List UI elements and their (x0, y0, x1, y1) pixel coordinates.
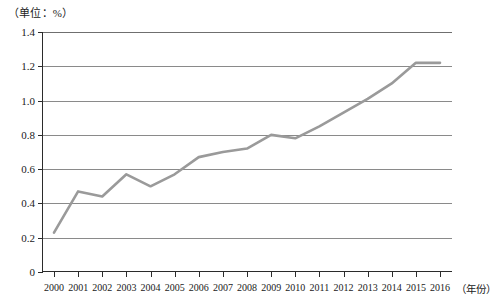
y-axis-label: 0 (30, 266, 36, 278)
x-axis-label: 2006 (189, 282, 209, 293)
x-axis-tick (295, 272, 296, 277)
x-axis-tick (368, 272, 369, 277)
x-axis-label: 2001 (68, 282, 88, 293)
x-axis-tick (392, 272, 393, 277)
x-axis-label: 2009 (261, 282, 281, 293)
y-axis-label: 1.4 (21, 26, 35, 38)
y-axis-label: 1.2 (21, 60, 35, 72)
line-chart: （单位：%） 00.20.40.60.81.01.21.4 2000200120… (0, 0, 490, 305)
x-axis-label: 2011 (310, 282, 330, 293)
x-axis-tick (126, 272, 127, 277)
x-axis-tick (78, 272, 79, 277)
data-series-line (42, 32, 452, 272)
x-axis-tick (247, 272, 248, 277)
x-axis-label: 2003 (116, 282, 136, 293)
x-axis-tick (440, 272, 441, 277)
plot-area: 00.20.40.60.81.01.21.4 20002001200220032… (42, 32, 452, 272)
x-axis-label: 2002 (92, 282, 112, 293)
x-axis-tick (271, 272, 272, 277)
y-axis-label: 0.2 (21, 232, 35, 244)
x-axis-label: 2008 (237, 282, 257, 293)
x-axis-label: 2010 (285, 282, 305, 293)
unit-caption: （单位：%） (8, 4, 73, 20)
x-axis-label: 2005 (165, 282, 185, 293)
x-axis-title: （年份） (456, 281, 490, 296)
x-axis-tick (416, 272, 417, 277)
y-axis-label: 1.0 (21, 95, 35, 107)
x-axis-tick (344, 272, 345, 277)
x-axis-label: 2000 (44, 282, 64, 293)
x-axis-label: 2014 (382, 282, 402, 293)
x-axis-label: 2016 (430, 282, 450, 293)
x-axis-label: 2007 (213, 282, 233, 293)
x-axis-tick (223, 272, 224, 277)
x-axis-label: 2012 (334, 282, 354, 293)
x-axis-tick (151, 272, 152, 277)
x-axis-tick (54, 272, 55, 277)
x-axis-tick (319, 272, 320, 277)
x-axis-tick (175, 272, 176, 277)
x-axis-label: 2013 (358, 282, 378, 293)
y-axis-label: 0.4 (21, 197, 35, 209)
x-axis-label: 2004 (141, 282, 161, 293)
y-axis-label: 0.6 (21, 163, 35, 175)
x-axis-tick (199, 272, 200, 277)
x-axis-label: 2015 (406, 282, 426, 293)
y-axis-label: 0.8 (21, 129, 35, 141)
y-axis-tick (38, 272, 43, 273)
x-axis-tick (102, 272, 103, 277)
